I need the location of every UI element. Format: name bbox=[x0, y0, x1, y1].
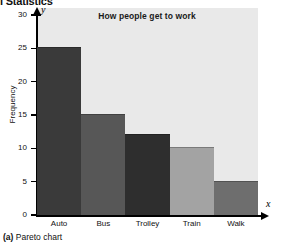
bar-train bbox=[170, 147, 214, 215]
x-axis-label-bus: Bus bbox=[81, 219, 125, 228]
y-axis-tick-label: 10 bbox=[5, 143, 27, 152]
x-axis-arrow-icon bbox=[261, 212, 269, 220]
x-axis-label-trolley: Trolley bbox=[125, 219, 169, 228]
x-axis-label-auto: Auto bbox=[37, 219, 81, 228]
caption-label: (a) bbox=[3, 232, 13, 242]
x-axis-label-train: Train bbox=[170, 219, 214, 228]
bar-trolley bbox=[125, 134, 169, 215]
bar-walk bbox=[214, 181, 258, 215]
caption-text: Pareto chart bbox=[16, 232, 62, 242]
y-axis-tick-label: 25 bbox=[5, 43, 27, 52]
y-axis-tick-label: 5 bbox=[5, 177, 27, 186]
bar-bus bbox=[81, 114, 125, 215]
y-axis-tick-label: 20 bbox=[5, 77, 27, 86]
x-axis-label-walk: Walk bbox=[214, 219, 258, 228]
bar-auto bbox=[37, 47, 81, 215]
figure-caption: (a) Pareto chart bbox=[3, 232, 62, 242]
y-axis-tick-label: 0 bbox=[5, 210, 27, 219]
x-axis-line bbox=[36, 215, 262, 217]
pareto-chart-figure: l Statistics How people get to work y x … bbox=[0, 0, 293, 249]
bar-series bbox=[37, 8, 258, 215]
x-axis-letter: x bbox=[266, 198, 270, 209]
y-axis-tick-label: 30 bbox=[5, 10, 27, 19]
y-axis-tick-label: 15 bbox=[5, 110, 27, 119]
